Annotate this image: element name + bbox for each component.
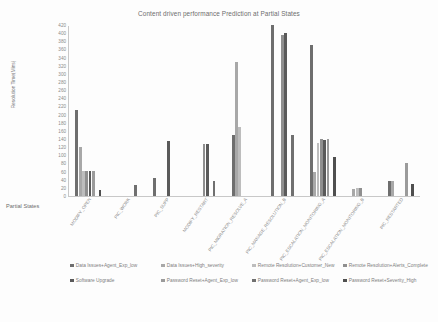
bar <box>153 178 156 196</box>
legend-swatch <box>70 279 74 283</box>
bar <box>405 163 408 196</box>
y-tick-label: 0 <box>44 195 66 200</box>
legend-row-2: Software UpgradePassword Reset+Agent_Exp… <box>70 278 434 283</box>
x-tick-label: MODIFY_RESTART <box>182 197 209 233</box>
bar <box>359 188 362 196</box>
bar-group <box>343 26 382 196</box>
y-tick-label: 120 <box>44 146 66 151</box>
y-tick-label: 60 <box>44 170 66 175</box>
bar <box>238 127 241 196</box>
x-tick-label: PIC_WORK <box>113 197 131 220</box>
x-tick-label: PIC_ESCALATION_MONITORING_A <box>279 197 326 262</box>
legend-swatch <box>343 279 347 283</box>
bar-group <box>265 26 304 196</box>
bar <box>134 185 137 196</box>
bar <box>92 171 95 196</box>
legend-item[interactable]: Password Reset+Severity_High <box>343 278 434 283</box>
x-tick-label: PIC_MIGRATION_RESOLVE_A <box>207 197 248 252</box>
legend-item[interactable]: Data Issues+Agent_Exp_low <box>70 263 161 268</box>
x-axis-title: Partial States <box>6 203 39 209</box>
bar <box>99 190 102 196</box>
y-tick-label: 200 <box>44 113 66 118</box>
y-axis-tick-labels: 0204060801001201401601802002202402602803… <box>44 26 66 197</box>
y-tick-label: 160 <box>44 130 66 135</box>
bar-group <box>108 26 147 196</box>
legend-swatch <box>70 264 74 268</box>
x-tick-label: PIC_RESTARTED <box>379 197 404 230</box>
y-tick-label: 80 <box>44 162 66 167</box>
legend-item[interactable]: Password Reset+Agent_Exp_low <box>252 278 343 283</box>
legend-label: Remote Resolution+Customer_New <box>258 263 335 268</box>
y-tick-label: 240 <box>44 97 66 102</box>
legend-swatch <box>343 264 347 268</box>
legend-label: Software Upgrade <box>76 278 115 283</box>
legend-label: Remote Resolution+Alerts_Complete <box>349 263 428 268</box>
x-tick-label: PIC_MANAGE_RESOLUTION_B <box>245 197 287 255</box>
y-tick-label: 100 <box>44 154 66 159</box>
bar-group <box>186 26 225 196</box>
x-tick-label: MODIFY_OPEN <box>69 197 92 227</box>
bar <box>391 181 394 196</box>
bar <box>271 25 274 196</box>
y-tick-label: 420 <box>44 24 66 29</box>
legend-label: Password Reset+Agent_Exp_low <box>258 278 329 283</box>
x-tick-label: PIC_SUPP <box>153 197 170 218</box>
bar-group <box>69 26 108 196</box>
bar-group <box>382 26 421 196</box>
legend-label: Data Issues+Agent_Exp_low <box>76 263 137 268</box>
legend-label: Password Reset+Agent_Exp_low <box>167 278 238 283</box>
legend-row-1: Data Issues+Agent_Exp_lowData Issues+Hig… <box>70 263 434 268</box>
legend-item[interactable]: Software Upgrade <box>70 278 161 283</box>
y-tick-label: 40 <box>44 179 66 184</box>
y-tick-label: 380 <box>44 40 66 45</box>
bar <box>411 184 414 196</box>
bar-group <box>225 26 264 196</box>
bar <box>291 135 294 196</box>
bar <box>206 144 209 196</box>
chart-canvas: Content driven performance Prediction at… <box>0 0 438 322</box>
bar <box>167 141 170 196</box>
legend-swatch <box>161 279 165 283</box>
y-tick-label: 360 <box>44 48 66 53</box>
legend-item[interactable]: Password Reset+Agent_Exp_low <box>161 278 252 283</box>
y-tick-label: 320 <box>44 65 66 70</box>
legend-swatch <box>161 264 165 268</box>
x-tick-label: PIC_ESCALATION_MONITORING_B <box>318 197 365 262</box>
bar-group <box>304 26 343 196</box>
chart-legend: Data Issues+Agent_Exp_lowData Issues+Hig… <box>70 263 434 293</box>
bar <box>333 157 336 196</box>
y-tick-label: 20 <box>44 187 66 192</box>
y-tick-label: 260 <box>44 89 66 94</box>
legend-swatch <box>252 264 256 268</box>
bar-group <box>147 26 186 196</box>
bar <box>213 181 216 196</box>
plot-area <box>68 26 420 197</box>
legend-label: Password Reset+Severity_High <box>349 278 417 283</box>
y-tick-label: 140 <box>44 138 66 143</box>
legend-label: Data Issues+High_severity <box>167 263 224 268</box>
y-tick-label: 280 <box>44 81 66 86</box>
bar <box>284 33 287 196</box>
legend-item[interactable]: Remote Resolution+Customer_New <box>252 263 343 268</box>
chart-title: Content driven performance Prediction at… <box>0 10 438 17</box>
y-tick-label: 220 <box>44 105 66 110</box>
legend-item[interactable]: Data Issues+High_severity <box>161 263 252 268</box>
y-axis-title: Resolution Time(Mins) <box>11 42 16 128</box>
x-axis-tick-labels: MODIFY_OPENPIC_WORKPIC_SUPPMODIFY_RESTAR… <box>68 197 420 257</box>
y-tick-label: 180 <box>44 122 66 127</box>
y-tick-label: 400 <box>44 32 66 37</box>
legend-item[interactable]: Remote Resolution+Alerts_Complete <box>343 263 434 268</box>
legend-swatch <box>252 279 256 283</box>
bar <box>327 139 330 196</box>
y-tick-label: 300 <box>44 73 66 78</box>
y-tick-label: 340 <box>44 56 66 61</box>
